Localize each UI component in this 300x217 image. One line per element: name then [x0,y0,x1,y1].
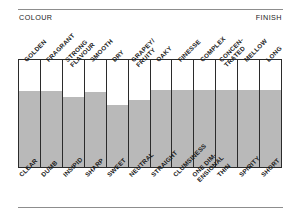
rating-bar[interactable] [41,60,63,167]
rating-bar[interactable] [216,60,238,167]
rating-bar[interactable] [260,60,281,167]
rating-bar-fill [19,91,40,167]
rating-bar-fill [260,90,281,167]
tasting-scale-chart: COLOUR FINISH GOLDENFRAGRANTSTRONGFLAVOU… [0,0,300,217]
rating-bar[interactable] [107,60,129,167]
finish-caption: FINISH [256,13,282,22]
rating-bar[interactable] [19,60,41,167]
top-divider-rule [18,9,283,10]
rating-bar[interactable] [151,60,173,167]
rating-bar[interactable] [238,60,260,167]
rating-bar-fill [85,92,106,167]
rating-bar-fill [41,91,62,167]
colour-caption: COLOUR [19,13,52,22]
rating-bar[interactable] [129,60,151,167]
rating-bar[interactable] [63,60,85,167]
bottom-divider-rule [18,207,283,208]
rating-bar[interactable] [85,60,107,167]
